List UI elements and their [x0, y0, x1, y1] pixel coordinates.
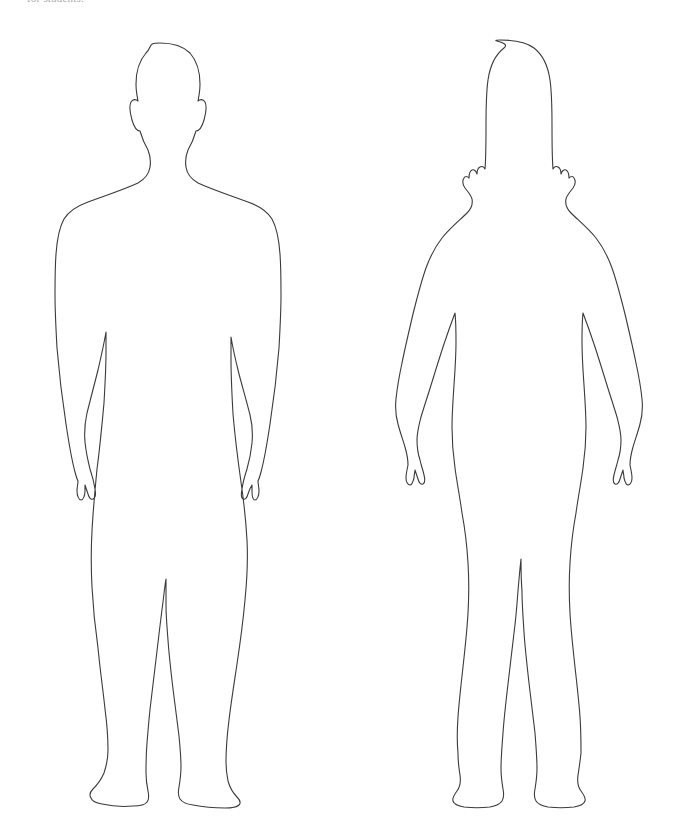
male-figure[interactable]: Male body outline, front view: [55, 43, 281, 808]
male-body-outline-icon: [55, 43, 281, 808]
female-figure[interactable]: Female body outline, front view: [396, 40, 643, 808]
body-outline-figures: Male body outline, front view Female bod…: [0, 0, 686, 831]
body-outline-page: for students. Male body outline, front v…: [0, 0, 686, 831]
female-body-outline-icon: [396, 40, 643, 808]
